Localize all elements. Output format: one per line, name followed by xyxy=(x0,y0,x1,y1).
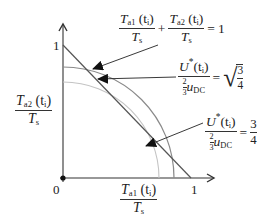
annotation-line-sum: Ta1 (ti) Ts + Ta2 (ti) Ts =1 xyxy=(119,12,225,46)
x-tick-1: 1 xyxy=(191,182,198,198)
pointer-arrow-line xyxy=(93,45,158,69)
boundary-line xyxy=(63,45,191,178)
origin-dot xyxy=(60,175,65,180)
origin-label: 0 xyxy=(53,182,60,198)
pointer-arrow-inner-arc xyxy=(146,123,203,146)
y-axis-label: Ta2 (ti) Ts xyxy=(15,94,52,127)
annotation-arc-sqrt: U*(ti) 23uDC =√34 xyxy=(178,58,243,97)
annotation-arc-three-quarters: U*(ti) 23uDC =34 xyxy=(205,113,257,152)
y-tick-1: 1 xyxy=(53,38,60,54)
x-axis-label: Ta1 (ti) Ts xyxy=(120,183,157,216)
